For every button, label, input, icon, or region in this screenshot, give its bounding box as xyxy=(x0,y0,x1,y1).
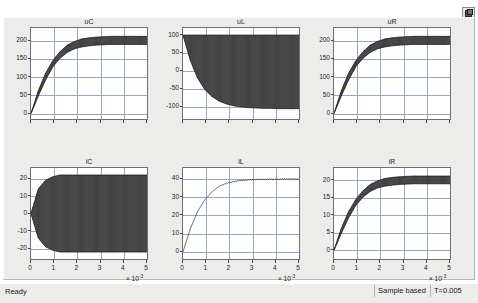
x-tick-mark xyxy=(76,260,77,263)
x-tick-label: 1 xyxy=(46,264,60,271)
plot-area[interactable] xyxy=(333,27,451,120)
x-tick-mark xyxy=(123,120,124,123)
x-tick-mark xyxy=(146,120,147,123)
x-tick-mark xyxy=(426,120,427,123)
x-tick-mark xyxy=(275,120,276,123)
y-tick-mark xyxy=(180,251,183,252)
x-tick-label: 4 xyxy=(419,264,433,271)
y-tick-label: 20 xyxy=(307,176,330,183)
x-tick-mark xyxy=(30,260,31,263)
x-tick-label: 0 xyxy=(326,264,340,271)
x-tick-mark xyxy=(100,260,101,263)
x-axis-exponent-label: × 10-3 xyxy=(126,273,143,282)
x-tick-mark xyxy=(228,260,229,263)
subplot-iL[interactable]: iL010203040012345× 10-3 xyxy=(156,157,306,278)
subplot-title: iL xyxy=(182,157,300,166)
y-tick-mark xyxy=(28,76,31,77)
plot-area[interactable] xyxy=(182,27,300,120)
x-tick-mark xyxy=(205,120,206,123)
signal-trace xyxy=(31,28,147,119)
x-tick-mark xyxy=(426,260,427,263)
x-tick-label: 2 xyxy=(221,264,235,271)
y-tick-label: 10 xyxy=(307,211,330,218)
x-tick-mark xyxy=(123,260,124,263)
y-tick-label: 5 xyxy=(307,228,330,235)
x-tick-mark xyxy=(53,260,54,263)
plot-area[interactable] xyxy=(182,167,300,260)
y-tick-mark xyxy=(331,76,334,77)
x-tick-label: 2 xyxy=(372,264,386,271)
x-tick-label: 3 xyxy=(396,264,410,271)
x-tick-mark xyxy=(403,260,404,263)
y-tick-label: 0 xyxy=(307,246,330,253)
x-tick-label: 5 xyxy=(442,264,456,271)
subplot-iR[interactable]: iR05101520012345× 10-3 xyxy=(307,157,457,278)
x-tick-mark xyxy=(53,120,54,123)
y-tick-label: -10 xyxy=(4,227,27,234)
y-tick-label: -20 xyxy=(4,244,27,251)
y-tick-mark xyxy=(180,178,183,179)
y-tick-label: 0 xyxy=(156,247,179,254)
signal-trace xyxy=(334,168,450,259)
x-tick-label: 1 xyxy=(198,264,212,271)
status-simulation-time: T=0.005 xyxy=(430,285,476,297)
plot-area[interactable] xyxy=(30,27,148,120)
y-tick-mark xyxy=(28,178,31,179)
y-tick-label: 200 xyxy=(307,36,330,43)
y-tick-mark xyxy=(28,113,31,114)
subplot-uL[interactable]: uL-100-50050100 xyxy=(156,17,306,138)
exponent-base: × 10 xyxy=(278,275,291,282)
x-tick-label: 5 xyxy=(139,264,153,271)
x-tick-label: 3 xyxy=(245,264,259,271)
x-tick-label: 4 xyxy=(116,264,130,271)
y-tick-label: 20 xyxy=(4,174,27,181)
x-tick-mark xyxy=(449,260,450,263)
y-tick-mark xyxy=(180,106,183,107)
y-tick-mark xyxy=(28,195,31,196)
subplot-iC[interactable]: iC-20-1001020012345× 10-3 xyxy=(4,157,154,278)
y-tick-label: 50 xyxy=(4,91,27,98)
x-tick-mark xyxy=(356,260,357,263)
x-tick-label: 3 xyxy=(93,264,107,271)
y-tick-mark xyxy=(331,179,334,180)
subplot-uR[interactable]: uR050100150200 xyxy=(307,17,457,138)
y-tick-label: 50 xyxy=(156,48,179,55)
x-tick-mark xyxy=(356,120,357,123)
x-tick-mark xyxy=(449,120,450,123)
x-tick-mark xyxy=(252,120,253,123)
subplot-title: uR xyxy=(333,17,451,26)
y-tick-mark xyxy=(331,232,334,233)
plot-area[interactable] xyxy=(30,167,148,260)
subplot-title: iC xyxy=(30,157,148,166)
y-tick-mark xyxy=(180,196,183,197)
y-tick-mark xyxy=(180,233,183,234)
subplot-title: uL xyxy=(182,17,300,26)
signal-trace xyxy=(31,168,147,259)
y-tick-label: 0 xyxy=(4,209,27,216)
y-tick-mark xyxy=(180,70,183,71)
plot-area[interactable] xyxy=(333,167,451,260)
x-tick-mark xyxy=(30,120,31,123)
y-tick-mark xyxy=(331,113,334,114)
y-tick-mark xyxy=(28,94,31,95)
y-tick-label: 100 xyxy=(307,73,330,80)
signal-trace xyxy=(183,168,299,259)
y-tick-label: 150 xyxy=(4,54,27,61)
y-tick-mark xyxy=(180,88,183,89)
x-tick-mark xyxy=(333,120,334,123)
subplot-title: uC xyxy=(30,17,148,26)
x-tick-mark xyxy=(100,120,101,123)
status-bar: Ready Sample based T=0.005 xyxy=(0,283,478,303)
y-tick-mark xyxy=(180,52,183,53)
signal-trace xyxy=(183,28,299,119)
y-tick-label: 100 xyxy=(4,73,27,80)
subplot-uC[interactable]: uC050100150200 xyxy=(4,17,154,138)
y-tick-label: 100 xyxy=(156,31,179,38)
exponent-power: -3 xyxy=(139,273,143,279)
x-tick-mark xyxy=(298,120,299,123)
signal-trace xyxy=(334,28,450,119)
y-tick-label: 15 xyxy=(307,193,330,200)
y-tick-mark xyxy=(331,197,334,198)
x-tick-mark xyxy=(403,120,404,123)
exponent-power: -3 xyxy=(442,273,446,279)
